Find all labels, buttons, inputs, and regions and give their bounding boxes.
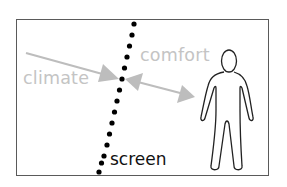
comfort-arrow: [125, 73, 195, 103]
diagram-canvas: climate comfort screen: [0, 0, 287, 187]
person-icon: [201, 50, 253, 170]
person-body: [201, 72, 253, 170]
climate-label: climate: [23, 70, 89, 88]
person-head: [222, 50, 237, 72]
comfort-arrowhead-right-icon: [177, 85, 195, 103]
comfort-label: comfort: [140, 47, 210, 65]
comfort-arrowhead-left-icon: [125, 73, 143, 91]
climate-arrowhead-icon: [98, 64, 119, 82]
screen-label: screen: [110, 151, 167, 168]
